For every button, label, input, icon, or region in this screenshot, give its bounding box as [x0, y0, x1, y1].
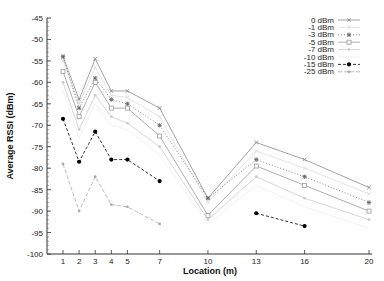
marker-filled-circle: [61, 117, 65, 121]
series-neg5dBm: [61, 70, 371, 218]
marker-dot: [368, 218, 371, 221]
marker-dot: [303, 197, 306, 200]
marker-dot: [158, 223, 161, 226]
series-neg1dBm: [61, 59, 371, 204]
marker-filled-circle: [254, 211, 258, 215]
x-tick-label: 3: [93, 257, 98, 266]
y-tick-label: -80: [31, 164, 43, 173]
y-tick-label: -75: [31, 143, 43, 152]
marker-dot: [158, 145, 161, 148]
marker-filled-circle: [125, 158, 129, 162]
marker-dot: [255, 175, 258, 178]
marker-square: [254, 164, 258, 168]
series-line: [63, 164, 160, 224]
marker-square: [303, 183, 307, 187]
series-line: [63, 119, 160, 181]
marker-square: [77, 115, 81, 119]
x-tick-label: 4: [109, 257, 114, 266]
marker-square: [367, 209, 371, 213]
y-tick-label: -60: [31, 78, 43, 87]
marker-dot: [78, 210, 81, 213]
y-tick-label: -50: [31, 35, 43, 44]
marker-square: [109, 106, 113, 110]
marker-dot: [348, 48, 351, 51]
x-tick-label: 10: [203, 257, 212, 266]
marker-square: [158, 134, 162, 138]
x-tick-label: 13: [252, 257, 261, 266]
marker-dot: [207, 218, 210, 221]
y-tick-label: -55: [31, 57, 43, 66]
series-line: [63, 57, 369, 203]
series-0dBm: [61, 55, 371, 200]
y-tick-label: -85: [31, 186, 43, 195]
marker-square: [93, 80, 97, 84]
marker-dot: [110, 203, 113, 206]
marker-square: [347, 40, 351, 44]
marker-square: [125, 106, 129, 110]
series-line: [256, 213, 304, 226]
marker-filled-circle: [77, 160, 81, 164]
y-tick-label: -95: [31, 229, 43, 238]
marker-filled-circle: [109, 158, 113, 162]
x-tick-label: 16: [300, 257, 309, 266]
marker-dot: [126, 122, 129, 125]
x-tick-label: 1: [61, 257, 66, 266]
marker-filled-circle: [158, 179, 162, 183]
x-axis-title: Location (m): [183, 266, 237, 276]
x-tick-label: 2: [77, 257, 82, 266]
legend: 0 dBm-1 dBm-3 dBm-5 dBm-7 dBm-10 dBm-15 …: [304, 16, 360, 77]
y-tick-label: -100: [27, 250, 44, 259]
series-line: [63, 61, 369, 203]
marker-square: [206, 213, 210, 217]
series-neg15dBm: [61, 117, 307, 228]
series-line: [63, 57, 369, 199]
series-line: [63, 82, 369, 219]
marker-dot: [94, 94, 97, 97]
y-axis-title: Average RSSI (dBm): [5, 92, 15, 179]
y-tick-label: -65: [31, 100, 43, 109]
series-neg3dBm: [61, 54, 371, 204]
x-tick-label: 7: [157, 257, 162, 266]
marker-dot: [62, 81, 65, 84]
series-group: [61, 54, 371, 228]
marker-dot: [110, 115, 113, 118]
marker-square: [61, 70, 65, 74]
marker-dot: [348, 70, 351, 73]
y-tick-label: -90: [31, 207, 43, 216]
marker-filled-circle: [302, 224, 306, 228]
x-tick-label: 20: [365, 257, 374, 266]
y-tick-label: -45: [31, 14, 43, 23]
y-tick-label: -70: [31, 121, 43, 130]
x-tick-label: 5: [125, 257, 130, 266]
legend-label: -25 dBm: [304, 67, 335, 76]
marker-dot: [62, 162, 65, 165]
marker-filled-circle: [93, 130, 97, 134]
marker-dot: [78, 128, 81, 131]
marker-dot: [94, 175, 97, 178]
rssi-line-chart: -45-50-55-60-65-70-75-80-85-90-95-100123…: [0, 0, 384, 281]
marker-dot: [126, 205, 129, 208]
marker-filled-circle: [347, 62, 351, 66]
